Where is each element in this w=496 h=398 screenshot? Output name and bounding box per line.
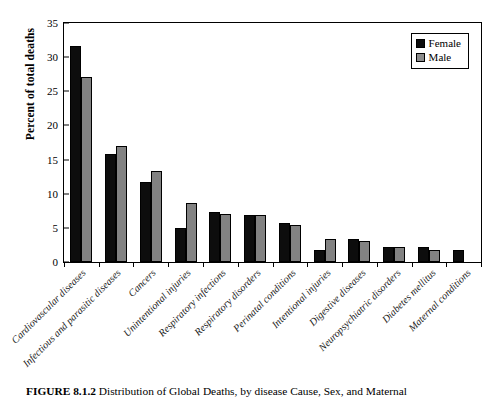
bar-group	[64, 23, 99, 262]
bar-male	[81, 77, 92, 262]
x-axis-label-text: Perinatal conditions	[231, 267, 298, 334]
legend-label-male: Male	[429, 51, 452, 65]
y-axis-title: Percent of total deaths	[24, 0, 36, 184]
y-tick-label: 35	[47, 17, 58, 29]
x-axis-label-text: Respiratory infections	[156, 267, 228, 339]
legend-item-male: Male	[416, 51, 461, 65]
legend-swatch-male	[416, 53, 425, 62]
legend-item-female: Female	[416, 37, 461, 51]
y-tick-label: 30	[47, 51, 58, 63]
y-tick-label: 5	[53, 222, 59, 234]
x-axis-labels: Cardiovascular diseasesInfectious and pa…	[63, 263, 482, 373]
x-axis-label-text: Maternal conditions	[406, 267, 472, 333]
y-tick-label: 25	[47, 85, 58, 97]
x-axis-label-text: Cancers	[126, 267, 158, 299]
caption-text: Distribution of Global Deaths, by diseas…	[99, 385, 407, 397]
bar-male	[151, 171, 162, 262]
y-tick-label: 20	[47, 119, 58, 131]
legend-swatch-female	[416, 39, 425, 48]
figure-caption: FIGURE 8.1.2 Distribution of Global Deat…	[26, 385, 486, 398]
y-tick-label: 15	[47, 154, 58, 166]
bar-female	[70, 46, 81, 262]
legend: Female Male	[411, 33, 469, 69]
y-tick-label: 0	[53, 256, 59, 268]
figure-container: Percent of total deaths 05101520253035 F…	[0, 0, 496, 398]
bar-group	[168, 23, 203, 262]
x-axis-label-text: Respiratory disorders	[192, 267, 263, 338]
caption-figure-number: FIGURE 8.1.2	[26, 385, 96, 397]
legend-label-female: Female	[429, 37, 461, 51]
bar-male	[186, 203, 197, 262]
y-tick-label: 10	[47, 188, 58, 200]
